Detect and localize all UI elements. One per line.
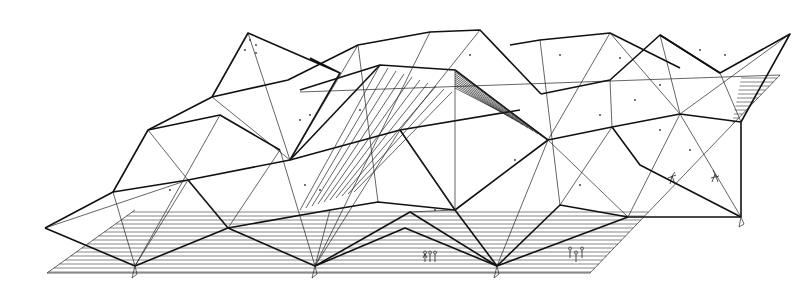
surface-dot: [699, 49, 701, 51]
person-standing-right: [711, 170, 719, 182]
surface-dot: [319, 189, 321, 191]
fold-line: [342, 86, 436, 196]
central-pyramid-folds: [300, 65, 548, 210]
surface-dot: [255, 52, 257, 54]
surface-dot: [659, 129, 661, 131]
surface-dot: [689, 149, 691, 151]
fold-line: [336, 83, 428, 198]
surface-dot: [434, 209, 436, 211]
roof-fold-lines: [45, 30, 790, 266]
surface-dot: [304, 184, 306, 186]
surface-dot: [309, 114, 311, 116]
surface-dot: [244, 49, 246, 51]
people-group-left: [423, 251, 437, 262]
surface-dot: [634, 99, 636, 101]
surface-dot: [559, 54, 561, 56]
fold-line: [354, 92, 452, 192]
column-feet: [132, 217, 744, 278]
surface-dot: [724, 54, 726, 56]
surface-dot: [169, 189, 171, 191]
fold-line: [324, 77, 412, 202]
surface-dot: [579, 184, 581, 186]
surface-dot: [249, 39, 251, 41]
surface-dot: [514, 159, 516, 161]
fold-line: [455, 80, 523, 125]
surface-dot: [469, 54, 471, 56]
surface-dot: [244, 224, 246, 226]
surface-dot: [255, 44, 257, 46]
fold-line: [455, 74, 538, 134]
folded-plate-roof-drawing: [0, 0, 807, 300]
fold-line: [348, 89, 444, 194]
surface-dot: [659, 84, 661, 86]
ground-plane-outline: [47, 75, 780, 273]
ground-plane-hatching: [48, 212, 648, 272]
surface-dot: [299, 119, 301, 121]
surface-dot: [619, 57, 621, 59]
fold-line: [306, 68, 388, 208]
fold-line: [455, 70, 548, 140]
surface-dot: [359, 109, 361, 111]
surface-dot: [599, 114, 601, 116]
